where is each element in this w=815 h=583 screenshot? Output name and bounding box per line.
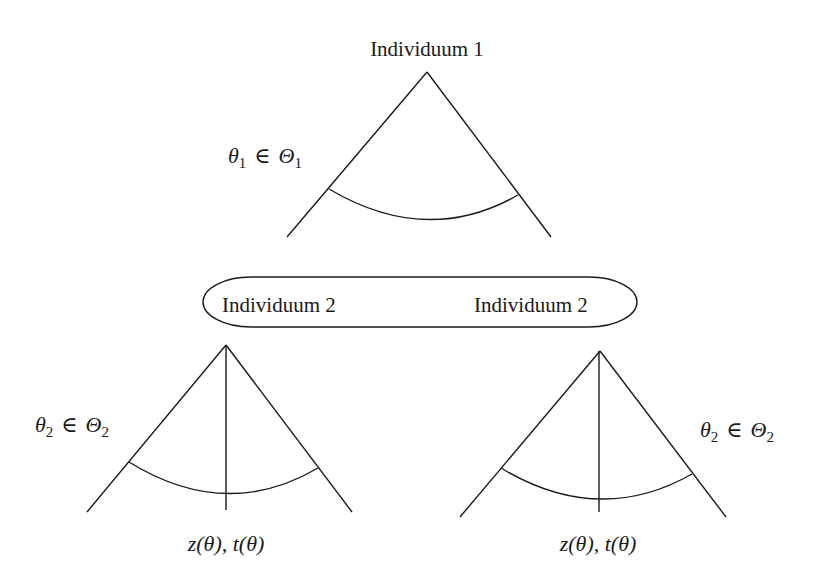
player2-right-node: θ2∈Θ2 z(θ), t(θ) xyxy=(460,351,774,556)
player2-left-node: θ2∈Θ2 z(θ), t(θ) xyxy=(35,345,352,556)
player1-type-label: θ1∈Θ1 xyxy=(228,143,302,171)
game-tree-diagram: Individuum 1 θ1∈Θ1 Individuum 2 Individu… xyxy=(0,0,815,583)
p2-left-type-arc xyxy=(129,462,318,494)
player1-type-arc xyxy=(329,189,518,220)
player1-left-branch xyxy=(287,72,427,237)
player2-label-left: Individuum 2 xyxy=(222,293,336,317)
p2-right-type-label: θ2∈Θ2 xyxy=(700,417,774,445)
p2-right-outcome-label: z(θ), t(θ) xyxy=(559,531,637,556)
player1-node: Individuum 1 θ1∈Θ1 xyxy=(228,37,551,237)
p2-left-type-label: θ2∈Θ2 xyxy=(35,412,109,440)
player2-information-set: Individuum 2 Individuum 2 xyxy=(203,277,637,327)
p2-left-right-branch xyxy=(226,345,352,512)
p2-right-type-arc xyxy=(501,468,692,499)
p2-right-left-branch xyxy=(460,351,600,517)
player1-right-branch xyxy=(427,72,551,237)
player2-label-right: Individuum 2 xyxy=(474,293,588,317)
p2-left-outcome-label: z(θ), t(θ) xyxy=(187,531,265,556)
player1-label: Individuum 1 xyxy=(370,37,484,61)
